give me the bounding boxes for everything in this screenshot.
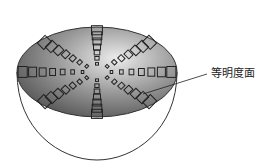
equal-lightness-label: 等明度面 (211, 64, 255, 80)
diagram: 等明度面 (0, 0, 277, 168)
hemisphere-figure (0, 0, 277, 168)
equal-lightness-plane (17, 27, 177, 117)
